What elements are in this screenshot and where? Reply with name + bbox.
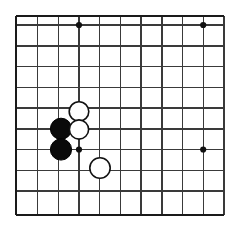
hoshi-top-left-icon [76, 22, 82, 28]
white-stone-upper[interactable] [69, 102, 89, 122]
hoshi-top-right-icon [200, 22, 206, 28]
white-stone-lower[interactable] [90, 158, 110, 178]
go-board-canvas [0, 0, 227, 232]
stones [50, 102, 110, 179]
black-stone-lower[interactable] [50, 139, 71, 160]
hoshi-center-right-icon [200, 146, 206, 152]
hoshi-center-left-icon [76, 146, 82, 152]
white-stone-middle[interactable] [69, 120, 88, 139]
black-stone-upper[interactable] [50, 118, 71, 139]
go-board-diagram [0, 0, 227, 232]
